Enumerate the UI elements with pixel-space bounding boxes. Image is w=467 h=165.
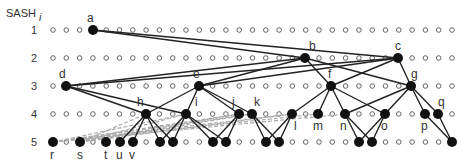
node-r	[48, 137, 58, 147]
empty-slot	[184, 84, 189, 89]
empty-slot	[303, 84, 308, 89]
level-labels: 12345	[31, 24, 37, 148]
empty-slot	[450, 84, 455, 89]
empty-slot	[330, 56, 335, 61]
node-w7	[354, 137, 364, 147]
empty-slot	[51, 56, 56, 61]
empty-slot	[264, 56, 269, 61]
node-w5	[261, 137, 271, 147]
empty-slot	[264, 84, 269, 89]
empty-slot	[436, 28, 441, 33]
node-label-f: f	[328, 67, 332, 81]
edge-d-i	[66, 86, 186, 114]
empty-slot	[237, 140, 242, 145]
node-v	[128, 137, 138, 147]
empty-slot	[290, 28, 295, 33]
node-b	[300, 53, 310, 63]
node-w1	[155, 137, 165, 147]
empty-slot	[210, 56, 215, 61]
empty-slot	[77, 28, 82, 33]
node-label-b: b	[309, 39, 316, 53]
empty-slot	[157, 84, 162, 89]
node-q	[433, 109, 443, 119]
node-l	[287, 109, 297, 119]
empty-slot	[91, 112, 96, 117]
node-w3	[208, 137, 218, 147]
empty-slot	[197, 112, 202, 117]
empty-slot	[317, 28, 322, 33]
node-k	[247, 109, 257, 119]
empty-slot	[370, 84, 375, 89]
empty-slot	[157, 28, 162, 33]
empty-slot	[250, 140, 255, 145]
empty-slot	[436, 56, 441, 61]
empty-slot	[317, 84, 322, 89]
node-t	[101, 137, 111, 147]
edge-a-c	[93, 30, 398, 58]
empty-slot	[423, 84, 428, 89]
empty-slot	[383, 28, 388, 33]
edge-b-e	[199, 58, 305, 86]
empty-slot	[383, 140, 388, 145]
empty-slot	[357, 56, 362, 61]
empty-slot	[144, 28, 149, 33]
edge-b-d	[66, 58, 305, 86]
empty-slot	[104, 84, 109, 89]
node-label-k: k	[254, 95, 261, 109]
node-p	[420, 109, 430, 119]
node-label-r: r	[50, 148, 54, 162]
node-g	[406, 81, 416, 91]
level-label-4: 4	[31, 108, 37, 120]
empty-slot	[317, 140, 322, 145]
node-i	[181, 109, 191, 119]
empty-slot	[197, 56, 202, 61]
empty-slot	[144, 140, 149, 145]
node-w4	[221, 137, 231, 147]
node-a	[88, 25, 98, 35]
empty-slot	[343, 28, 348, 33]
node-label-m: m	[313, 119, 323, 133]
empty-slot	[170, 84, 175, 89]
empty-slot	[410, 56, 415, 61]
node-label-o: o	[381, 119, 388, 133]
empty-slot	[117, 112, 122, 117]
empty-slot	[330, 140, 335, 145]
empty-slot	[237, 56, 242, 61]
empty-slot	[131, 28, 136, 33]
empty-slot	[237, 84, 242, 89]
empty-slot	[330, 28, 335, 33]
empty-slot	[357, 112, 362, 117]
diagram-title: SASHi	[6, 7, 42, 23]
empty-slot	[51, 28, 56, 33]
empty-slot	[224, 56, 229, 61]
node-f	[326, 81, 336, 91]
empty-slot	[277, 28, 282, 33]
empty-slot	[277, 56, 282, 61]
empty-slot	[277, 84, 282, 89]
empty-slot	[197, 140, 202, 145]
node-u	[115, 137, 125, 147]
empty-slot	[343, 140, 348, 145]
node-o	[380, 109, 390, 119]
empty-slot	[157, 56, 162, 61]
node-label-h: h	[137, 95, 144, 109]
empty-slot	[157, 112, 162, 117]
empty-slot	[423, 56, 428, 61]
empty-slot	[210, 28, 215, 33]
empty-slot	[410, 140, 415, 145]
sash-diagram: SASHi 12345 abcdefghijklmnopqrstuv	[0, 0, 467, 165]
empty-slot	[210, 112, 215, 117]
sash-graph: SASHi 12345 abcdefghijklmnopqrstuv	[0, 0, 467, 165]
empty-slot	[104, 112, 109, 117]
empty-slot	[170, 56, 175, 61]
node-w9	[447, 137, 457, 147]
level-label-3: 3	[31, 80, 37, 92]
empty-slot	[343, 56, 348, 61]
empty-slot	[290, 140, 295, 145]
level-label-5: 5	[31, 136, 37, 148]
empty-slot	[184, 28, 189, 33]
empty-slot	[64, 112, 69, 117]
empty-slot	[423, 28, 428, 33]
empty-slot	[117, 84, 122, 89]
node-j	[234, 109, 244, 119]
